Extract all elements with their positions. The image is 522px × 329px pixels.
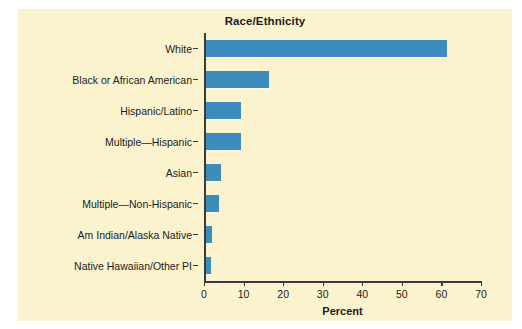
bar-row bbox=[206, 250, 483, 281]
bar-am-indian-alaska-native bbox=[206, 226, 213, 243]
bar-white bbox=[206, 40, 447, 57]
y-axis-label-row: White bbox=[18, 33, 198, 64]
x-axis-tick-label: 40 bbox=[356, 288, 368, 300]
x-axis-tick bbox=[204, 281, 205, 286]
bar-row bbox=[206, 64, 483, 95]
y-axis-label: White bbox=[165, 43, 192, 55]
bar-row bbox=[206, 95, 483, 126]
x-axis-tick bbox=[283, 281, 284, 286]
bar-row bbox=[206, 126, 483, 157]
y-axis-label: Hispanic/Latino bbox=[120, 105, 192, 117]
x-axis-tick bbox=[441, 281, 442, 286]
x-axis-tick-label: 30 bbox=[317, 288, 329, 300]
y-axis-label-row: Hispanic/Latino bbox=[18, 95, 198, 126]
x-axis-tick-label: 20 bbox=[277, 288, 289, 300]
bar-multiple-non-hispanic bbox=[206, 195, 220, 212]
y-axis-label-row: Native Hawaiian/Other PI bbox=[18, 250, 198, 281]
x-axis-tick bbox=[362, 281, 363, 286]
y-axis-label: Multiple—Non-Hispanic bbox=[82, 198, 192, 210]
x-axis-tick-label: 60 bbox=[436, 288, 448, 300]
y-axis-label-row: Multiple—Hispanic bbox=[18, 126, 198, 157]
y-axis-tick bbox=[193, 48, 198, 49]
plot-area: 010203040506070 Percent bbox=[204, 33, 481, 281]
y-axis-category-labels: White Black or African American Hispanic… bbox=[18, 33, 198, 281]
y-axis-tick bbox=[193, 79, 198, 80]
y-axis-label: Native Hawaiian/Other PI bbox=[74, 260, 192, 272]
x-axis-tick-label: 50 bbox=[396, 288, 408, 300]
y-axis-tick bbox=[193, 265, 198, 266]
bar-row bbox=[206, 33, 483, 64]
bar-series bbox=[206, 33, 483, 281]
chart-figure: Race/Ethnicity White Black or African Am… bbox=[18, 9, 512, 321]
x-axis-tick bbox=[402, 281, 403, 286]
x-axis-tick-label: 70 bbox=[475, 288, 487, 300]
chart-title: Race/Ethnicity bbox=[18, 15, 512, 27]
y-axis-label: Black or African American bbox=[72, 74, 192, 86]
y-axis-label-row: Black or African American bbox=[18, 64, 198, 95]
y-axis-tick bbox=[193, 203, 198, 204]
bar-row bbox=[206, 188, 483, 219]
x-axis-line bbox=[204, 281, 481, 283]
bar-hispanic-latino bbox=[206, 102, 242, 119]
x-axis-title: Percent bbox=[204, 305, 481, 317]
bar-row bbox=[206, 157, 483, 188]
y-axis-tick bbox=[193, 172, 198, 173]
y-axis-label-row: Asian bbox=[18, 157, 198, 188]
x-axis-tick-label: 0 bbox=[201, 288, 207, 300]
x-axis-tick bbox=[323, 281, 324, 286]
y-axis-label: Multiple—Hispanic bbox=[105, 136, 192, 148]
clipped-caption-strip bbox=[0, 0, 522, 9]
bar-multiple-hispanic bbox=[206, 133, 242, 150]
y-axis-label-row: Multiple—Non-Hispanic bbox=[18, 188, 198, 219]
y-axis-label-row: Am Indian/Alaska Native bbox=[18, 219, 198, 250]
y-axis-label: Asian bbox=[166, 167, 192, 179]
y-axis-tick bbox=[193, 141, 198, 142]
bar-asian bbox=[206, 164, 222, 181]
y-axis-tick bbox=[193, 234, 198, 235]
y-axis-tick bbox=[193, 110, 198, 111]
bar-black-or-african-american bbox=[206, 71, 269, 88]
y-axis-label: Am Indian/Alaska Native bbox=[78, 229, 192, 241]
x-axis-tick bbox=[481, 281, 482, 286]
bar-native-hawaiian-other-pi bbox=[206, 257, 212, 274]
x-axis-tick-label: 10 bbox=[238, 288, 250, 300]
bar-row bbox=[206, 219, 483, 250]
x-axis-tick bbox=[244, 281, 245, 286]
